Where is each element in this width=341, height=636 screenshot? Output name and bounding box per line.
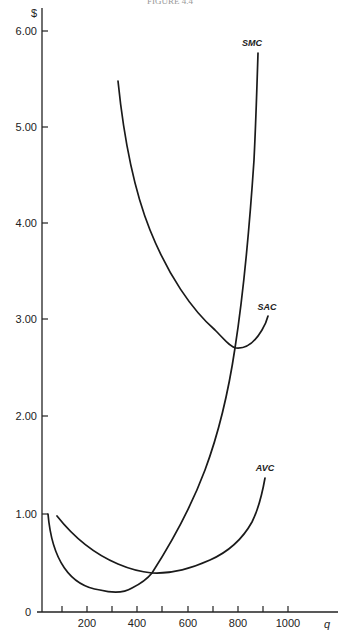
sac-curve [118,81,268,348]
smc-label: SMC [242,38,263,48]
x-tick-400: 400 [128,617,146,629]
cost-curves-chart: FIGURE 4.4 $ q 0 6.00 5.00 4.00 3.00 2.0… [0,0,341,636]
x-tick-200: 200 [78,617,96,629]
x-tick-1000: 1000 [276,617,300,629]
x-tick-600: 600 [179,617,197,629]
sac-label: SAC [257,302,277,312]
y-axis-label: $ [31,7,37,19]
y-ticks [42,31,48,514]
origin-label: 0 [25,606,31,618]
y-tick-1: 1.00 [16,508,37,520]
y-tick-6: 6.00 [16,25,37,37]
avc-label: AVC [255,463,275,473]
y-tick-5: 5.00 [16,121,37,133]
figure-title: FIGURE 4.4 [147,0,194,6]
y-tick-3: 3.00 [16,313,37,325]
x-axis-label: q [324,618,331,630]
x-ticks [62,606,288,612]
y-tick-4: 4.00 [16,217,37,229]
smc-curve [48,53,258,592]
x-tick-800: 800 [229,617,247,629]
y-tick-2: 2.00 [16,410,37,422]
